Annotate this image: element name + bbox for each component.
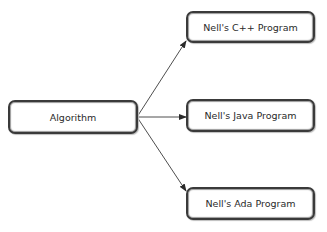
node-algorithm-label: Algorithm <box>50 112 97 123</box>
diagram-canvas: Algorithm Nell's C++ Program Nell's Java… <box>0 0 327 232</box>
edge-algorithm-to-cpp <box>137 41 186 117</box>
node-java-program: Nell's Java Program <box>186 99 315 132</box>
node-java-program-label: Nell's Java Program <box>205 110 297 121</box>
node-cpp-program-label: Nell's C++ Program <box>203 22 297 33</box>
node-ada-program-label: Nell's Ada Program <box>205 198 295 209</box>
node-algorithm: Algorithm <box>8 100 138 134</box>
edge-algorithm-to-ada <box>137 117 186 191</box>
node-ada-program: Nell's Ada Program <box>186 187 315 220</box>
node-cpp-program: Nell's C++ Program <box>186 11 315 43</box>
